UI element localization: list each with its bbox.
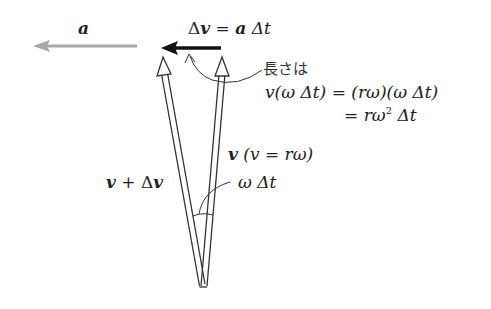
equation-line-2: = rω2 Δt [344, 106, 417, 124]
v-relation: (v = rω) [238, 144, 313, 164]
eq2-dt: Δt [392, 105, 417, 125]
v-plus-delta-v-arrow [157, 57, 205, 286]
eq2-equals: = [344, 105, 364, 125]
acceleration-arrow [33, 40, 137, 52]
delta-v-arrow [161, 41, 221, 55]
v-arrow [201, 57, 229, 286]
delta-v-v: v [200, 18, 210, 38]
delta-symbol: Δ [188, 18, 200, 38]
length-pointer-head [185, 54, 195, 63]
delta-v-a: a [235, 18, 246, 38]
label-v-plus-delta-v: v + Δv [106, 174, 163, 191]
delta-v-equals: = [210, 18, 235, 38]
angle-arc [193, 214, 213, 216]
equation-line-1: v(ω Δt) = (rω)(ω Δt) [265, 84, 438, 101]
label-angle: ω Δt [238, 174, 276, 191]
vdv-v2: v [153, 172, 163, 192]
v-bold: v [228, 144, 238, 164]
label-delta-v-eq: Δv = a Δt [188, 20, 271, 37]
vdv-plus-delta: + Δ [116, 172, 153, 192]
label-length: 長さは [263, 62, 308, 77]
eq2-r-omega: rω [364, 105, 386, 125]
vdv-v1: v [106, 172, 116, 192]
delta-v-dt: Δt [246, 18, 271, 38]
label-v: v (v = rω) [228, 146, 313, 163]
label-a: a [78, 20, 89, 37]
